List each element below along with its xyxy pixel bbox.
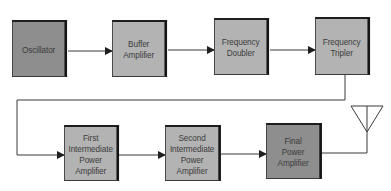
block-label: Final Power Amplifier [278, 135, 309, 168]
block-label: Second Intermediate Power Amplifier [170, 132, 214, 176]
block-label: First Intermediate Power Amplifier [68, 132, 112, 176]
block-second-intermediate-power-amplifier: Second Intermediate Power Amplifier [165, 125, 221, 181]
line-final-pa-to-antenna [322, 106, 367, 153]
transmitter-block-diagram: Oscillator Buffer Amplifier Frequency Do… [0, 0, 391, 191]
block-oscillator: Oscillator [12, 20, 67, 77]
block-frequency-doubler: Frequency Doubler [214, 18, 269, 75]
block-label: Frequency Tripler [323, 36, 361, 58]
block-label: Buffer Amplifier [123, 38, 154, 60]
block-buffer-amplifier: Buffer Amplifier [112, 20, 167, 77]
block-label: Oscillator [22, 44, 55, 55]
block-label: Frequency Doubler [222, 36, 260, 58]
block-first-intermediate-power-amplifier: First Intermediate Power Amplifier [64, 125, 119, 181]
block-frequency-tripler: Frequency Tripler [315, 17, 370, 75]
block-final-power-amplifier: Final Power Amplifier [266, 123, 322, 179]
